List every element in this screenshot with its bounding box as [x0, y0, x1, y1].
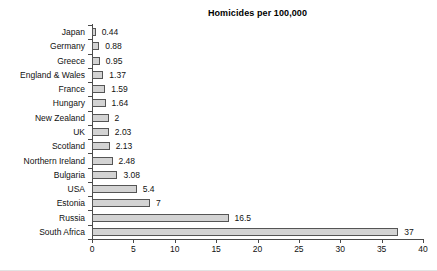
x-axis-tick [216, 239, 217, 243]
x-axis-tick-label: 5 [131, 245, 136, 254]
category-label: South Africa [39, 228, 85, 237]
bar-row: USA5.4 [92, 182, 423, 196]
category-label: England & Wales [20, 71, 85, 80]
bar-value-label: 37 [404, 228, 413, 237]
bar-row: New Zealand2 [92, 111, 423, 125]
y-axis-tick [88, 82, 92, 83]
bar [92, 142, 110, 150]
bar-value-label: 0.44 [102, 28, 119, 37]
y-axis-tick [88, 210, 92, 211]
category-label: New Zealand [35, 113, 85, 122]
bar [92, 157, 113, 165]
bar-row: Scotland2.13 [92, 139, 423, 153]
bar [92, 114, 109, 122]
x-axis-tick-label: 15 [211, 245, 220, 254]
x-axis-tick [382, 239, 383, 243]
y-axis-tick [88, 225, 92, 226]
category-label: Hungary [53, 99, 85, 108]
bar-row: Germany0.88 [92, 39, 423, 53]
x-axis-tick [133, 239, 134, 243]
y-axis-tick [88, 153, 92, 154]
bar-chart: Homicides per 100,000 Japan0.44Germany0.… [0, 0, 437, 271]
x-axis-tick [423, 239, 424, 243]
bar-row: South Africa37 [92, 225, 423, 239]
bar-row: Japan0.44 [92, 25, 423, 39]
bar-row: Hungary1.64 [92, 96, 423, 110]
x-axis-tick-label: 25 [294, 245, 303, 254]
bar [92, 71, 103, 79]
y-axis-tick [88, 68, 92, 69]
bar [92, 185, 137, 193]
x-axis-tick [340, 239, 341, 243]
bar-row: Russia16.5 [92, 210, 423, 224]
category-label: Germany [50, 42, 85, 51]
category-label: Northern Ireland [24, 156, 85, 165]
y-axis-tick [88, 39, 92, 40]
bar [92, 199, 150, 207]
bar-value-label: 0.88 [105, 42, 122, 51]
x-axis-tick-label: 20 [253, 245, 262, 254]
category-label: Greece [57, 56, 85, 65]
bar-row: Greece0.95 [92, 54, 423, 68]
x-axis-tick [92, 239, 93, 243]
bar-value-label: 2.13 [116, 142, 133, 151]
bar-row: UK2.03 [92, 125, 423, 139]
category-label: Japan [62, 28, 85, 37]
x-axis-tick [299, 239, 300, 243]
bar-row: Estonia7 [92, 196, 423, 210]
chart-title: Homicides per 100,000 [92, 8, 423, 18]
bar-row: France1.59 [92, 82, 423, 96]
bar-row: England & Wales1.37 [92, 68, 423, 82]
category-label: France [59, 85, 85, 94]
category-label: Bulgaria [54, 171, 85, 180]
x-axis-tick-label: 30 [336, 245, 345, 254]
bar-row: Bulgaria3.08 [92, 168, 423, 182]
bar-value-label: 2 [115, 113, 120, 122]
y-axis-tick [88, 196, 92, 197]
x-axis-tick-label: 40 [418, 245, 427, 254]
category-label: USA [68, 185, 85, 194]
bar [92, 171, 117, 179]
bar-value-label: 2.03 [115, 128, 132, 137]
x-axis-tick-label: 10 [170, 245, 179, 254]
category-label: UK [73, 128, 85, 137]
bar [92, 99, 106, 107]
y-axis-tick [88, 168, 92, 169]
bar [92, 28, 96, 36]
y-axis-tick [88, 25, 92, 26]
bar-value-label: 7 [156, 199, 161, 208]
bar-value-label: 1.59 [111, 85, 128, 94]
bar [92, 228, 398, 236]
bar-value-label: 0.95 [106, 56, 123, 65]
x-axis-tick-label: 0 [90, 245, 95, 254]
bar-value-label: 5.4 [143, 185, 155, 194]
bar-value-label: 3.08 [123, 171, 140, 180]
plot-area: Japan0.44Germany0.88Greece0.95England & … [92, 25, 423, 239]
bar [92, 42, 99, 50]
bar-value-label: 1.64 [112, 99, 129, 108]
y-axis-tick [88, 54, 92, 55]
bar [92, 214, 229, 222]
bar [92, 128, 109, 136]
y-axis-tick [88, 96, 92, 97]
x-axis-tick-label: 35 [377, 245, 386, 254]
category-label: Russia [59, 213, 85, 222]
y-axis-tick [88, 111, 92, 112]
bar-value-label: 16.5 [235, 213, 252, 222]
x-axis-tick [258, 239, 259, 243]
category-label: Scotland [52, 142, 85, 151]
bar-value-label: 1.37 [109, 71, 126, 80]
x-axis-tick [175, 239, 176, 243]
bar [92, 85, 105, 93]
y-axis-tick [88, 182, 92, 183]
bar-value-label: 2.48 [119, 156, 136, 165]
y-axis-tick [88, 139, 92, 140]
category-label: Estonia [57, 199, 85, 208]
y-axis-tick [88, 125, 92, 126]
bar [92, 57, 100, 65]
bar-row: Northern Ireland2.48 [92, 153, 423, 167]
